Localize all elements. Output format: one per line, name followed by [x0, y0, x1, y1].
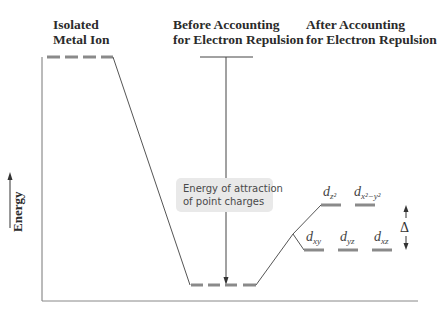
delta-arrow-up-head — [404, 205, 409, 212]
energy-arrow-head — [8, 172, 13, 180]
callout-line1: Energy of attraction — [183, 182, 266, 195]
connector-down — [113, 57, 190, 285]
delta-arrow-down-head — [404, 243, 409, 250]
energy-diagram — [0, 0, 437, 334]
orbital-label-dxy: dxy — [306, 229, 321, 246]
energy-axis-label: Energy — [10, 192, 26, 232]
orbital-label-dx2-y2: dx²−y² — [354, 184, 380, 201]
split-lower — [293, 234, 304, 250]
orbital-label-dyz: dyz — [340, 229, 355, 246]
orbital-label-dz2: dz² — [323, 184, 336, 201]
attraction-callout: Energy of attraction of point charges — [176, 178, 273, 212]
orbital-label-dxz: dxz — [374, 229, 389, 246]
splitting-delta-label: Δ — [400, 220, 409, 236]
connector-up — [256, 234, 293, 285]
callout-line2: of point charges — [183, 195, 266, 208]
